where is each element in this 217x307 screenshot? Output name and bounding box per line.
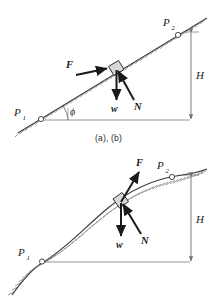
vector-normal-ab xyxy=(118,71,134,100)
ramp-hatching xyxy=(8,170,206,295)
label-normal-c: N xyxy=(140,235,149,246)
vector-force-ab xyxy=(76,69,107,76)
curved-ramp-diagram-c: P 1 P 2 H F w N xyxy=(0,150,217,307)
point-marker-p1-c xyxy=(39,259,44,264)
point-marker-p2-ab xyxy=(175,32,180,37)
physics-figure-page: P 1 P 2 ϕ H F w N (a), (b) xyxy=(0,0,217,307)
label-p2-subscript-c: 2 xyxy=(166,167,170,175)
label-p2-c: P xyxy=(156,159,164,171)
caption-ab: (a), (b) xyxy=(0,133,217,143)
point-marker-p2-c xyxy=(169,174,174,179)
figure-panel-ab: P 1 P 2 ϕ H F w N (a), (b) xyxy=(0,0,217,155)
incline-diagram-ab: P 1 P 2 ϕ H F w N xyxy=(0,0,217,155)
label-weight-ab: w xyxy=(111,103,118,114)
label-p1-subscript-c: 1 xyxy=(27,254,31,262)
label-force-c: F xyxy=(135,157,143,168)
label-p1-subscript-ab: 1 xyxy=(23,114,27,122)
label-p2-subscript-ab: 2 xyxy=(172,24,176,32)
label-height-c: H xyxy=(195,213,205,225)
label-weight-c: w xyxy=(116,239,123,250)
angle-arc-phi xyxy=(63,106,68,121)
vector-normal-c xyxy=(123,204,141,234)
label-p1-c: P xyxy=(17,246,25,258)
label-normal-ab: N xyxy=(133,101,142,112)
label-angle-phi-ab: ϕ xyxy=(70,106,75,117)
label-p1-ab: P xyxy=(13,106,21,118)
point-marker-p1-ab xyxy=(38,116,43,121)
vector-force-c xyxy=(121,172,139,202)
figure-panel-c: P 1 P 2 H F w N (c) xyxy=(0,150,217,307)
label-height-ab: H xyxy=(195,69,205,81)
ramp-surface-curve xyxy=(12,169,207,295)
label-force-ab: F xyxy=(65,59,73,70)
label-p2-ab: P xyxy=(162,16,170,28)
